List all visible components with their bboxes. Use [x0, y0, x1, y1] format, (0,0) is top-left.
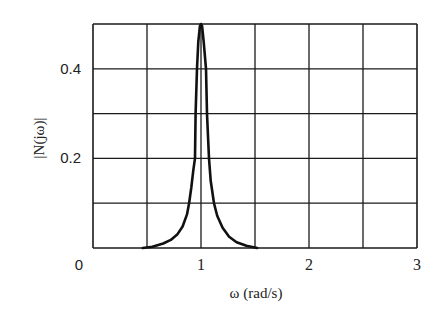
plot-grid: [93, 24, 417, 248]
x-tick-label: 2: [305, 256, 313, 273]
x-tick-label: 3: [413, 256, 421, 273]
x-tick-label: 1: [197, 256, 205, 273]
y-axis-label: |N(jω)|: [31, 118, 48, 159]
x-tick-label: 0: [75, 256, 83, 273]
tick-labels: 01230.20.4: [60, 60, 421, 273]
x-axis-label: ω (rad/s): [230, 285, 283, 302]
magnitude-curve: [143, 24, 258, 248]
resonance-magnitude-chart: 01230.20.4 ω (rad/s) |N(jω)|: [0, 0, 438, 312]
y-tick-label: 0.4: [60, 60, 81, 77]
y-tick-label: 0.2: [60, 149, 81, 166]
